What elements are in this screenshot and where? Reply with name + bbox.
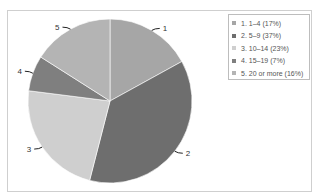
legend-swatch-icon: [232, 71, 236, 75]
legend-swatch-icon: [232, 46, 236, 50]
legend-item: 4. 15–19 (7%): [232, 55, 306, 68]
legend-item: 2. 5–9 (37%): [232, 30, 306, 43]
leader-line: [25, 71, 33, 73]
leader-line: [62, 27, 70, 29]
slice-label: 3: [27, 145, 32, 154]
slice-label: 1: [163, 24, 168, 33]
legend: 1. 1–4 (17%) 2. 5–9 (37%) 3. 10–14 (23%)…: [228, 14, 310, 80]
legend-swatch-icon: [232, 21, 236, 25]
legend-item: 1. 1–4 (17%): [232, 17, 306, 30]
legend-swatch-icon: [232, 59, 236, 63]
leader-line: [34, 147, 42, 149]
slice-label: 4: [17, 67, 22, 76]
slice-label: 5: [55, 23, 60, 32]
slice-label: 2: [186, 149, 191, 158]
leader-line: [152, 28, 160, 30]
legend-item: 5. 20 or more (16%): [232, 67, 306, 80]
legend-item: 3. 10–14 (23%): [232, 42, 306, 55]
legend-swatch-icon: [232, 34, 236, 38]
leader-line: [175, 151, 183, 153]
